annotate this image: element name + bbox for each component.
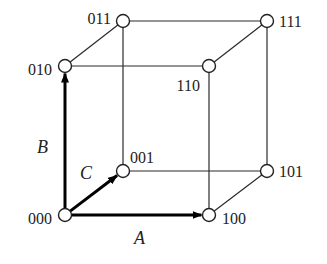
cube-edge-100-101 (209, 171, 267, 215)
axis-label-C: C (80, 163, 93, 183)
node-label-100: 100 (222, 210, 246, 227)
node-110 (203, 60, 216, 73)
node-label-010: 010 (28, 61, 52, 78)
node-001 (117, 165, 130, 178)
binary-cube-diagram: 000100010110001101011111 ABC (0, 0, 327, 264)
node-011 (117, 15, 130, 28)
node-010 (59, 60, 72, 73)
cube-edge-010-011 (65, 21, 123, 66)
axis-arrows (65, 74, 202, 216)
cube-edge-110-111 (209, 21, 267, 66)
axis-arrow-C (70, 176, 117, 212)
node-label-000: 000 (28, 210, 52, 227)
node-label-001: 001 (130, 149, 154, 166)
node-label-101: 101 (279, 163, 303, 180)
cube-edges (65, 21, 267, 215)
node-labels: 000100010110001101011111 (28, 10, 303, 227)
node-label-011: 011 (88, 10, 111, 27)
axis-label-A: A (133, 228, 146, 248)
node-111 (261, 15, 274, 28)
node-label-111: 111 (279, 13, 302, 30)
node-label-110: 110 (177, 77, 200, 94)
axis-label-B: B (37, 137, 48, 157)
node-000 (59, 209, 72, 222)
node-100 (203, 209, 216, 222)
node-101 (261, 165, 274, 178)
